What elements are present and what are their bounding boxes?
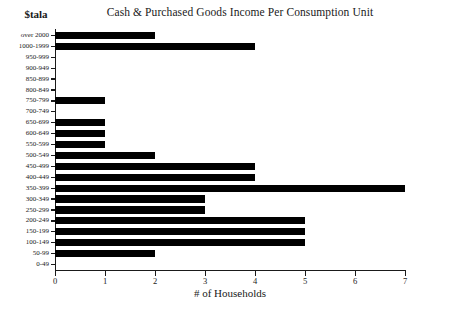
y-axis-tick-label: 450-499 [26, 161, 49, 172]
y-axis-tick-label: 900-949 [26, 63, 49, 74]
x-axis-tick [405, 271, 406, 276]
bar-row: 350-399 [55, 183, 405, 194]
y-axis-tick-label: 100-149 [26, 237, 49, 248]
bar-row: 700-749 [55, 106, 405, 117]
bar-row: 150-199 [55, 226, 405, 237]
y-axis-tick [51, 68, 56, 69]
bar-row: 50-99 [55, 248, 405, 259]
y-axis-tick-label: 850-899 [26, 74, 49, 85]
bar [55, 239, 305, 246]
y-axis-tick-label: over 2000 [21, 30, 49, 41]
y-axis-tick-label: 650-699 [26, 117, 49, 128]
y-axis-tick [51, 89, 56, 90]
y-axis-tick-label: 750-799 [26, 95, 49, 106]
bar [55, 217, 305, 224]
y-axis-tick-label: 550-599 [26, 139, 49, 150]
bar-row: 650-699 [55, 117, 405, 128]
bar-row: 1000-1999 [55, 41, 405, 52]
y-axis-title: $tala [10, 8, 62, 20]
bar-row: over 2000 [55, 30, 405, 41]
y-axis-tick [51, 264, 56, 265]
x-axis-tick [155, 271, 156, 276]
y-axis-tick-label: 400-449 [26, 172, 49, 183]
bar [55, 195, 205, 202]
bar-row: 850-899 [55, 74, 405, 85]
bar [55, 43, 255, 50]
chart-title: Cash & Purchased Goods Income Per Consum… [90, 6, 390, 18]
bar [55, 152, 155, 159]
bar [55, 32, 155, 39]
x-axis-tick [55, 271, 56, 276]
bar [55, 250, 155, 257]
y-axis-tick-label: 350-399 [26, 183, 49, 194]
y-axis-tick-label: 500-549 [26, 150, 49, 161]
x-axis-tick-label: 6 [345, 276, 365, 286]
y-axis-tick-label: 200-249 [26, 215, 49, 226]
bar [55, 97, 105, 104]
bar-row: 250-299 [55, 205, 405, 216]
y-axis-tick-label: 150-199 [26, 226, 49, 237]
bar [55, 130, 105, 137]
bar-row: 0-49 [55, 259, 405, 270]
y-axis-tick-label: 300-349 [26, 194, 49, 205]
bar-row: 300-349 [55, 194, 405, 205]
x-axis-line [55, 270, 406, 271]
x-axis-tick [305, 271, 306, 276]
bar [55, 163, 255, 170]
bar-row: 450-499 [55, 161, 405, 172]
bar-row: 550-599 [55, 139, 405, 150]
x-axis-tick [255, 271, 256, 276]
y-axis-tick-label: 250-299 [26, 205, 49, 216]
bar [55, 174, 255, 181]
bar [55, 206, 205, 213]
y-axis-tick-label: 600-649 [26, 128, 49, 139]
y-axis-tick [51, 57, 56, 58]
bar-row: 900-949 [55, 63, 405, 74]
x-axis-tick-label: 5 [295, 276, 315, 286]
x-axis-tick-label: 4 [245, 276, 265, 286]
y-axis-tick-label: 1000-1999 [19, 41, 49, 52]
x-axis-tick [205, 271, 206, 276]
x-axis-tick-label: 7 [395, 276, 415, 286]
bar-row: 800-849 [55, 85, 405, 96]
bar [55, 228, 305, 235]
y-axis-tick-label: 0-49 [36, 259, 49, 270]
y-axis-tick [51, 111, 56, 112]
x-axis-tick [105, 271, 106, 276]
y-axis-tick-label: 700-749 [26, 106, 49, 117]
y-axis-tick-label: 950-999 [26, 52, 49, 63]
bar [55, 141, 105, 148]
bar-row: 950-999 [55, 52, 405, 63]
x-axis-tick [355, 271, 356, 276]
bar-row: 100-149 [55, 237, 405, 248]
bar-row: 750-799 [55, 95, 405, 106]
y-axis-tick-label: 50-99 [33, 248, 49, 259]
x-axis-tick-label: 1 [95, 276, 115, 286]
bar [55, 119, 105, 126]
x-axis-tick-label: 0 [45, 276, 65, 286]
bar-row: 600-649 [55, 128, 405, 139]
y-axis-tick [51, 78, 56, 79]
bar-chart-figure: Cash & Purchased Goods Income Per Consum… [0, 0, 462, 309]
x-axis-tick-label: 3 [195, 276, 215, 286]
bar-row: 400-449 [55, 172, 405, 183]
bar [55, 185, 405, 192]
x-axis-tick-label: 2 [145, 276, 165, 286]
bar-row: 500-549 [55, 150, 405, 161]
bar-row: 200-249 [55, 215, 405, 226]
x-axis-title: # of Households [55, 287, 405, 299]
plot-area: over 20001000-1999950-999900-949850-8998… [55, 30, 405, 270]
y-axis-tick-label: 800-849 [26, 85, 49, 96]
